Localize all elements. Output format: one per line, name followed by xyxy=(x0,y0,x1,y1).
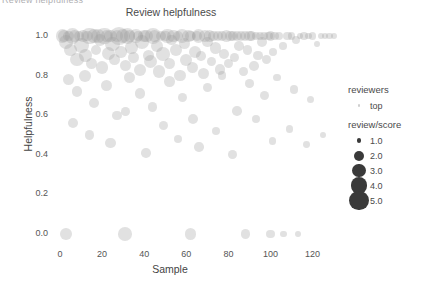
legend-entry-label: 5.0 xyxy=(370,196,383,206)
data-point xyxy=(96,28,113,45)
data-point xyxy=(266,31,275,40)
data-point xyxy=(160,29,174,43)
data-point xyxy=(269,137,277,145)
data-point xyxy=(215,64,226,75)
data-point xyxy=(207,57,216,66)
data-point xyxy=(252,115,260,123)
data-point xyxy=(124,30,136,42)
data-point xyxy=(173,31,183,41)
data-point xyxy=(133,31,143,41)
data-point xyxy=(219,49,229,59)
data-point xyxy=(217,31,227,41)
legend-entry[interactable]: 2.0 xyxy=(348,148,422,163)
data-point xyxy=(59,35,73,49)
data-point xyxy=(187,62,198,73)
data-point xyxy=(208,31,219,42)
legend-entry-label: 3.0 xyxy=(370,166,383,176)
data-point xyxy=(96,61,109,74)
data-point xyxy=(128,52,139,63)
data-point xyxy=(87,29,101,43)
legend-marker-icon xyxy=(348,104,370,106)
data-point xyxy=(224,59,233,68)
legend-entry[interactable]: top xyxy=(348,98,422,113)
data-point xyxy=(305,33,312,40)
data-point xyxy=(199,30,211,42)
data-point xyxy=(104,30,116,42)
data-point xyxy=(210,42,221,53)
data-point xyxy=(257,37,267,47)
data-point xyxy=(116,29,129,42)
data-point xyxy=(145,28,161,44)
data-point xyxy=(69,30,80,41)
x-tick-label: 0 xyxy=(45,249,75,259)
data-point xyxy=(148,102,158,112)
data-point xyxy=(63,31,74,42)
data-point xyxy=(185,31,195,41)
legend-marker-icon xyxy=(348,164,370,177)
data-point xyxy=(234,41,244,51)
data-point xyxy=(241,229,250,238)
data-point xyxy=(105,37,120,52)
data-point xyxy=(56,29,69,42)
data-point xyxy=(318,33,325,40)
data-point xyxy=(245,79,253,87)
data-point xyxy=(239,67,248,76)
legend-entry[interactable]: 3.0 xyxy=(348,163,422,178)
data-point xyxy=(297,33,304,40)
data-point xyxy=(249,61,259,71)
legend-entry[interactable]: 1.0 xyxy=(348,133,422,148)
legend-entry[interactable]: 5.0 xyxy=(348,193,422,208)
data-point xyxy=(292,36,300,44)
data-point xyxy=(68,118,78,128)
data-point xyxy=(269,48,277,56)
data-point xyxy=(192,31,203,42)
data-point xyxy=(283,32,291,40)
data-point xyxy=(105,138,116,149)
chart-screenshot: Review helpfulness Review helpfulness 0.… xyxy=(0,0,424,286)
data-point xyxy=(109,54,120,65)
legend-entry-label: 4.0 xyxy=(370,181,383,191)
data-point xyxy=(70,53,83,66)
data-point xyxy=(253,51,262,60)
data-point xyxy=(185,228,196,239)
data-point xyxy=(91,45,101,55)
y-tick-label: 0.2 xyxy=(22,188,48,198)
data-point xyxy=(135,35,149,49)
page-title: Review helpfulness xyxy=(96,6,246,18)
data-point xyxy=(270,32,279,41)
data-point xyxy=(134,64,146,76)
data-point xyxy=(266,230,274,238)
data-point xyxy=(124,72,136,84)
data-point xyxy=(101,80,112,91)
data-point xyxy=(262,55,271,64)
data-point xyxy=(143,50,154,61)
data-point xyxy=(86,58,98,70)
data-point xyxy=(60,228,72,240)
data-point xyxy=(138,30,150,42)
data-point xyxy=(74,38,89,53)
data-point xyxy=(79,70,91,82)
data-point xyxy=(175,29,189,43)
data-point xyxy=(212,127,220,135)
data-point xyxy=(202,37,212,47)
y-axis-title: Helpfulness xyxy=(22,84,34,164)
data-point xyxy=(198,68,209,79)
legend-entry-label: 2.0 xyxy=(370,151,383,161)
data-point xyxy=(164,58,176,70)
data-point xyxy=(129,29,143,43)
legend-group-title: review/score xyxy=(348,119,422,130)
x-tick-label: 120 xyxy=(298,249,328,259)
data-point xyxy=(264,32,272,40)
data-point xyxy=(273,74,281,82)
data-point xyxy=(81,28,97,44)
data-point xyxy=(218,71,227,80)
data-point xyxy=(247,31,256,40)
data-point xyxy=(102,47,115,60)
data-point xyxy=(322,33,328,39)
data-point xyxy=(120,28,135,43)
data-point xyxy=(260,32,268,40)
data-point xyxy=(74,31,84,41)
data-point xyxy=(174,70,185,81)
data-point xyxy=(307,96,314,103)
data-point xyxy=(189,46,201,58)
